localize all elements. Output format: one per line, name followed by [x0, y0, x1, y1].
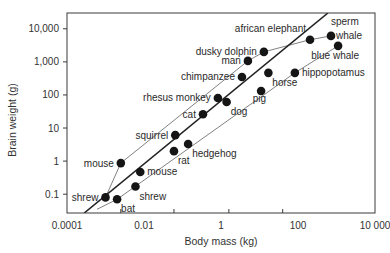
brain-body-scatter-chart: 0.00010.01110010 000 0.11101001,00010,00… — [0, 0, 390, 253]
point-label: horse — [272, 77, 297, 88]
point-label: rhesus monkey — [143, 92, 211, 103]
data-point: african elephant — [235, 23, 314, 44]
point-label: mouse — [84, 158, 114, 169]
point-label: shrew — [139, 191, 166, 202]
plot-frame — [67, 13, 375, 213]
point-marker — [136, 168, 145, 177]
data-point: hippopotamus — [291, 67, 365, 78]
data-point: shrew — [131, 182, 167, 201]
point-label: shrew — [72, 192, 99, 203]
point-marker — [306, 35, 315, 44]
x-tick-label: 10 000 — [360, 220, 390, 231]
y-axis-ticks: 0.11101001,00010,000 — [28, 23, 67, 199]
data-point: hedgehog — [184, 140, 237, 159]
y-tick-label: 10 — [48, 123, 60, 134]
y-tick-label: 100 — [42, 89, 59, 100]
point-marker — [260, 48, 269, 57]
point-label: hippopotamus — [302, 67, 365, 78]
point-label: chimpanzee — [181, 71, 235, 82]
x-tick-label: 0.0001 — [52, 220, 83, 231]
point-label: mouse — [147, 166, 177, 177]
x-axis-ticks: 0.00010.01110010 000 — [52, 209, 390, 231]
data-point: blue whale — [311, 42, 359, 61]
point-marker — [244, 57, 253, 66]
point-marker — [101, 193, 110, 202]
point-label: hedgehog — [192, 148, 237, 159]
y-tick-label: 1,000 — [34, 56, 59, 67]
point-marker — [113, 195, 122, 204]
y-tick-label: 10,000 — [28, 23, 59, 34]
x-tick-label: 0.01 — [134, 220, 154, 231]
point-marker — [214, 94, 223, 103]
data-point: bat — [113, 195, 135, 214]
point-label: blue whale — [311, 50, 359, 61]
data-point: cat — [183, 109, 208, 120]
point-label: bat — [121, 203, 135, 214]
point-marker — [238, 73, 247, 82]
y-tick-label: 0.1 — [45, 189, 59, 200]
point-marker — [117, 159, 126, 168]
data-point: mouse — [136, 166, 178, 177]
data-point: chimpanzee — [181, 71, 246, 82]
data-point: spermwhale — [327, 16, 363, 41]
point-marker — [327, 32, 336, 41]
point-marker — [131, 182, 140, 191]
data-points: shrewbatshrewmousemouserathedgehogsquirr… — [72, 16, 365, 214]
point-label: sperm — [331, 16, 359, 27]
data-point: pig — [253, 87, 266, 104]
point-label: dusky dolphin — [196, 46, 257, 57]
x-tick-label: 1 — [218, 220, 224, 231]
x-tick-label: 100 — [290, 220, 307, 231]
point-label: dog — [231, 106, 248, 117]
data-point: shrew — [72, 192, 110, 203]
data-point: dog — [222, 98, 247, 117]
point-label: rat — [178, 155, 190, 166]
point-label: pig — [253, 93, 266, 104]
point-marker — [184, 140, 193, 149]
data-point: mouse — [84, 158, 125, 169]
data-point: rhesus monkey — [143, 92, 222, 103]
point-marker — [291, 69, 300, 78]
point-label: cat — [183, 109, 197, 120]
point-marker — [199, 110, 208, 119]
point-label: squirrel — [136, 130, 169, 141]
x-axis-title: Body mass (kg) — [185, 235, 258, 247]
point-marker — [222, 98, 231, 107]
data-point: squirrel — [136, 130, 180, 141]
chart-canvas: 0.00010.01110010 000 0.11101001,00010,00… — [0, 0, 390, 253]
y-tick-label: 1 — [53, 156, 59, 167]
point-label: african elephant — [235, 23, 306, 34]
point-label: whale — [335, 30, 363, 41]
point-marker — [171, 131, 180, 140]
y-axis-title: Brain weight (g) — [6, 83, 18, 157]
